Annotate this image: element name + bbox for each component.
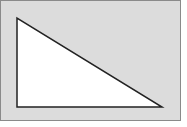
right-triangle <box>17 18 162 107</box>
diagram-canvas <box>0 0 187 127</box>
